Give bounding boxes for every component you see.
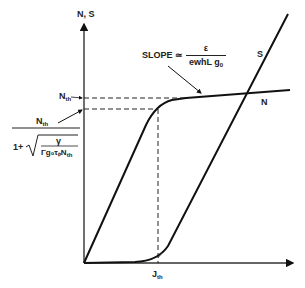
slope-numerator: ε	[186, 44, 226, 55]
slope-denominator: ewhL g0	[186, 56, 226, 68]
formula-one-plus: 1+	[13, 143, 23, 152]
formula-sqrt-numerator: γ	[56, 137, 61, 146]
y-axis-label: N, S	[77, 10, 95, 19]
s-curve-label: S	[257, 50, 263, 59]
formula-sqrt-denominator: Γg₀τₚNth	[41, 149, 72, 158]
formula-numerator: Nth	[36, 117, 48, 127]
j-th-label: Jth	[152, 270, 163, 280]
n-th-label: Nth	[59, 92, 71, 102]
slope-pointer-arrow	[168, 66, 201, 93]
n-curve-label: N	[261, 98, 268, 107]
diagram-canvas	[0, 0, 305, 288]
n-curve	[84, 90, 290, 263]
formula-pointer-arrow	[58, 110, 82, 123]
slope-label: SLOPE ≃	[142, 51, 183, 60]
slope-fraction: ε ewhL g0	[186, 44, 226, 68]
n-th-pointer-arrow	[71, 97, 82, 98]
